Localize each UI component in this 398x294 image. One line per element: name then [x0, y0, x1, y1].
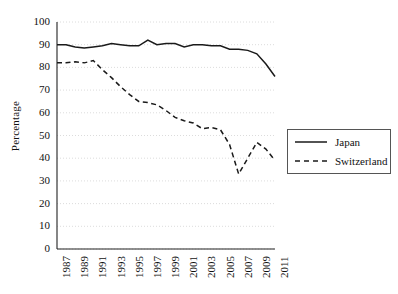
y-tick-90: 90: [20, 39, 50, 50]
y-tick-50: 50: [20, 130, 50, 141]
y-tick-20: 20: [20, 198, 50, 209]
y-tick-0: 0: [20, 243, 50, 254]
x-tick-1995: 1995: [134, 256, 145, 278]
y-tick-30: 30: [20, 175, 50, 186]
legend-item-switzerland: Switzerland: [294, 155, 388, 167]
legend-label-switzerland: Switzerland: [335, 155, 388, 167]
y-tick-10: 10: [20, 220, 50, 231]
x-tick-1989: 1989: [79, 256, 90, 278]
y-tick-100: 100: [20, 16, 50, 27]
legend-swatch-solid-icon: [294, 137, 328, 147]
x-tick-1991: 1991: [97, 256, 108, 278]
legend-item-japan: Japan: [294, 136, 360, 148]
x-tick-2009: 2009: [261, 256, 272, 278]
y-tick-70: 70: [20, 84, 50, 95]
x-tick-2003: 2003: [206, 256, 217, 278]
legend-swatch-dashed-icon: [294, 156, 328, 166]
legend: Japan Switzerland: [287, 129, 391, 174]
x-tick-1993: 1993: [116, 256, 127, 278]
chart-figure: Percentage 0102030405060708090100 198719…: [0, 0, 398, 294]
y-tick-80: 80: [20, 61, 50, 72]
series-line-japan: [57, 40, 275, 76]
y-tick-40: 40: [20, 152, 50, 163]
gridlines: [57, 22, 275, 249]
x-tick-2005: 2005: [225, 256, 236, 278]
y-tick-60: 60: [20, 107, 50, 118]
legend-label-japan: Japan: [335, 136, 360, 148]
x-tick-2011: 2011: [279, 256, 290, 278]
x-tick-1999: 1999: [170, 256, 181, 278]
x-tick-1987: 1987: [61, 256, 72, 278]
series-line-switzerland: [57, 61, 275, 175]
x-tick-2001: 2001: [188, 256, 199, 278]
x-tick-1997: 1997: [152, 256, 163, 278]
x-tick-2007: 2007: [243, 256, 254, 278]
